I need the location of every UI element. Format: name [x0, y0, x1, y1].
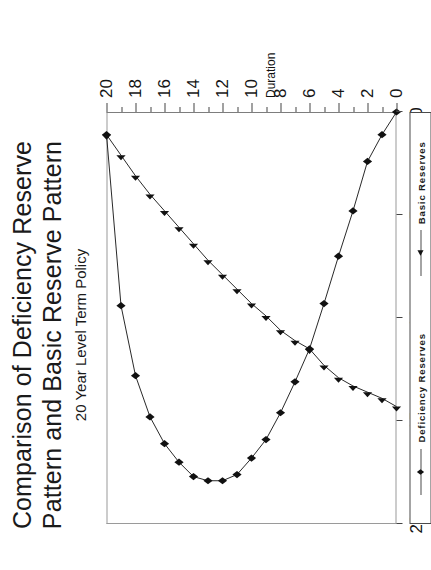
x-axis-tick-label: 14	[183, 79, 203, 98]
data-point-marker	[275, 409, 284, 416]
x-axis-tick-label: 16	[154, 79, 174, 98]
x-axis-tick-label: 0	[386, 89, 406, 98]
legend-item: Deficiency Reserves	[415, 333, 426, 495]
title-block: Comparison of Deficiency Reserve Pattern…	[6, 100, 91, 570]
x-axis-major-tick	[135, 103, 136, 112]
x-axis-minor-tick	[208, 107, 209, 112]
data-point-marker	[333, 253, 342, 260]
legend-line-basic	[420, 230, 421, 276]
data-point-marker	[348, 386, 357, 391]
x-axis-major-tick	[251, 103, 252, 112]
y-axis-tick	[396, 111, 402, 112]
x-axis-minor-tick	[237, 107, 238, 112]
data-point-marker	[203, 477, 212, 484]
data-point-marker	[217, 477, 226, 484]
x-axis-minor-tick	[266, 107, 267, 112]
triangle-icon	[416, 249, 425, 258]
chart-title-line-1: Comparison of Deficiency Reserve	[6, 100, 36, 570]
x-axis-major-tick	[222, 103, 223, 112]
data-point-marker	[275, 330, 284, 335]
diamond-icon	[416, 467, 425, 476]
rotated-figure: Comparison of Deficiency Reserve Pattern…	[0, 0, 431, 570]
data-point-marker	[362, 158, 371, 165]
data-point-marker	[159, 440, 168, 447]
x-axis-minor-tick	[324, 107, 325, 112]
data-point-marker	[391, 407, 400, 412]
data-point-marker	[130, 372, 139, 379]
series-line-deficiency-reserves	[106, 112, 396, 481]
x-axis-major-tick	[164, 103, 165, 112]
x-axis-minor-tick	[150, 107, 151, 112]
data-point-marker	[246, 454, 255, 461]
x-axis-major-tick	[106, 103, 107, 112]
x-axis-tick-label: 2	[357, 89, 377, 98]
x-axis-tick-label: 20	[96, 79, 116, 98]
data-point-marker	[130, 176, 139, 181]
x-axis-minor-tick	[121, 107, 122, 112]
data-point-marker	[116, 302, 125, 309]
x-axis-major-tick	[280, 103, 281, 112]
x-axis-tick-label: 12	[212, 79, 232, 98]
plot-area: 0246810121416182005101520	[106, 112, 396, 524]
data-point-marker	[290, 378, 299, 385]
data-point-marker	[362, 392, 371, 397]
x-axis-minor-tick	[353, 107, 354, 112]
data-point-marker	[377, 131, 386, 138]
data-point-marker	[290, 341, 299, 346]
legend-item: Basic Reserves	[415, 141, 426, 276]
legend-line-deficiency	[420, 449, 421, 495]
x-axis-tick-label: 4	[328, 89, 348, 98]
data-point-marker	[319, 300, 328, 307]
x-axis-major-tick	[309, 103, 310, 112]
y-axis-tick	[396, 420, 402, 421]
data-point-marker	[261, 436, 270, 443]
data-point-marker	[188, 473, 197, 480]
chart-subtitle: 20 Year Level Term Policy	[69, 100, 91, 570]
data-point-marker	[333, 378, 342, 383]
x-axis-minor-tick	[382, 107, 383, 112]
x-axis-major-tick	[338, 103, 339, 112]
x-axis-major-tick	[367, 103, 368, 112]
data-point-marker	[377, 398, 386, 403]
x-axis-minor-tick	[295, 107, 296, 112]
y-axis-tick	[396, 317, 402, 318]
data-point-marker	[145, 413, 154, 420]
legend-label-basic: Basic Reserves	[415, 141, 426, 224]
x-axis-tick-label: 18	[125, 79, 145, 98]
series-line-basic-reserves	[106, 135, 396, 407]
data-point-marker	[348, 207, 357, 214]
x-axis-title: Duration	[263, 53, 277, 98]
x-axis-minor-tick	[179, 107, 180, 112]
legend-label-deficiency: Deficiency Reserves	[415, 333, 426, 443]
x-axis-major-tick	[193, 103, 194, 112]
y-axis-tick	[396, 214, 402, 215]
x-axis-tick-label: 6	[299, 89, 319, 98]
y-axis-tick	[396, 523, 402, 524]
x-axis-tick-label: 10	[241, 79, 261, 98]
chart-legend: Deficiency Reserves Basic Reserves	[409, 112, 431, 524]
chart-page: Comparison of Deficiency Reserve Pattern…	[0, 0, 431, 570]
chart-title-line-2: Pattern and Basic Reserve Pattern	[36, 100, 66, 570]
series-canvas	[106, 112, 396, 524]
